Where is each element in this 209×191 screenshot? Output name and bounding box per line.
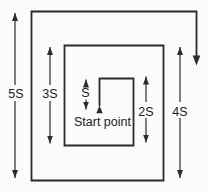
dimension-arrow-2s: 2S: [138, 77, 153, 143]
dimension-label-2s: 2S: [138, 105, 153, 119]
dimension-arrow-4s: 4S: [172, 47, 187, 178]
spiral-path-diagram: 5S 3S S 2S 4S Start point: [0, 0, 209, 191]
start-point-arrowhead: [96, 106, 102, 114]
diagram-canvas: 5S 3S S 2S 4S Start point: [0, 0, 209, 191]
dimension-label-s: S: [81, 86, 89, 100]
dimension-arrow-3s: 3S: [42, 47, 57, 144]
dimension-label-5s: 5S: [8, 87, 23, 101]
start-point-label: Start point: [74, 115, 132, 129]
spiral-end-arrowhead: [193, 56, 201, 66]
dimension-arrow-s: S: [81, 80, 89, 110]
dimension-label-4s: 4S: [172, 105, 187, 119]
dimension-label-3s: 3S: [42, 87, 57, 101]
dimension-arrow-5s: 5S: [8, 13, 23, 178]
